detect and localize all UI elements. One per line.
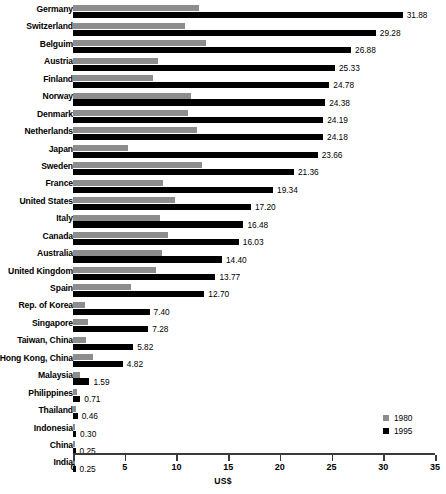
- bar-1980: [73, 197, 175, 203]
- bar-group: 1.59: [73, 369, 446, 386]
- bar-group: 21.36: [73, 160, 446, 177]
- legend-swatch-1980: [383, 415, 389, 421]
- legend-item-1980: 1980: [383, 411, 412, 424]
- bar-value-label: 19.34: [277, 185, 298, 195]
- bar-1980: [73, 40, 206, 46]
- x-axis-tick-label: 10: [171, 462, 181, 472]
- x-axis-tick: [435, 455, 437, 461]
- bar-group: 4.82: [73, 352, 446, 369]
- bar-1980: [73, 284, 131, 290]
- bar-value-label: 23.66: [322, 150, 343, 160]
- chart-row: Italy16.48: [0, 212, 446, 229]
- bar-value-label: 5.82: [137, 342, 153, 352]
- x-axis-tick-label: 35: [430, 462, 440, 472]
- bar-value-label: 17.20: [255, 202, 276, 212]
- bar-group: 17.20: [73, 195, 446, 212]
- legend-item-1995: 1995: [383, 424, 412, 437]
- bar-1995: [73, 65, 335, 71]
- bar-value-label: 0.46: [82, 411, 98, 421]
- category-label: Austria: [0, 56, 73, 66]
- bar-value-label: 16.03: [243, 237, 264, 247]
- x-axis-tick: [73, 455, 75, 461]
- bar-1980: [73, 267, 156, 273]
- chart-row: Denmark24.19: [0, 108, 446, 125]
- category-label: Sweden: [0, 161, 73, 171]
- chart-row: Spain12.70: [0, 282, 446, 299]
- chart-row: Austria25.33: [0, 55, 446, 72]
- bar-1980: [73, 162, 202, 168]
- category-label: France: [0, 178, 73, 188]
- bar-group: 0.25: [73, 456, 446, 473]
- legend-label-1980: 1980: [394, 413, 412, 423]
- bar-group: 14.40: [73, 247, 446, 264]
- bar-value-label: 0.71: [84, 394, 100, 404]
- bar-group: 24.38: [73, 90, 446, 107]
- bar-1980: [73, 145, 128, 151]
- legend-label-1995: 1995: [394, 426, 412, 436]
- x-axis-tick: [280, 455, 282, 461]
- bar-1980: [73, 127, 197, 133]
- bar-1995: [73, 99, 325, 105]
- bar-value-label: 24.19: [327, 115, 348, 125]
- bar-1995: [73, 82, 329, 88]
- x-axis-tick-label: 25: [327, 462, 337, 472]
- bar-value-label: 0.30: [80, 429, 96, 439]
- category-label: Australia: [0, 248, 73, 258]
- bar-group: 24.19: [73, 108, 446, 125]
- chart-row: Finland24.78: [0, 73, 446, 90]
- chart-legend: 1980 1995: [383, 411, 412, 437]
- category-label: Hong Kong, China: [0, 353, 73, 363]
- bar-value-label: 26.88: [355, 45, 376, 55]
- bar-group: 23.66: [73, 143, 446, 160]
- chart-row: Hong Kong, China4.82: [0, 352, 446, 369]
- bar-1980: [73, 302, 85, 308]
- bar-value-label: 31.88: [407, 10, 428, 20]
- x-axis-tick-label: 15: [223, 462, 233, 472]
- category-label: Singapore: [0, 318, 73, 328]
- bar-value-label: 21.36: [298, 167, 319, 177]
- category-label: United Kingdom: [0, 266, 73, 276]
- bar-1980: [73, 354, 93, 360]
- legend-swatch-1995: [383, 428, 389, 434]
- x-axis-tick-label: 5: [122, 462, 127, 472]
- bar-value-label: 12.70: [208, 289, 229, 299]
- bar-1995: [73, 221, 243, 227]
- category-label: United States: [0, 196, 73, 206]
- category-label: Finland: [0, 74, 73, 84]
- bar-1995: [73, 204, 251, 210]
- bar-1995: [73, 12, 403, 18]
- bar-group: 29.28: [73, 20, 446, 37]
- category-label: China: [0, 440, 73, 450]
- chart-row: Philippines0.71: [0, 387, 446, 404]
- bar-1995: [73, 378, 89, 384]
- bar-1995: [73, 309, 150, 315]
- bar-1980: [73, 250, 162, 256]
- category-label: Denmark: [0, 109, 73, 119]
- bar-1995: [73, 274, 215, 280]
- bar-value-label: 14.40: [226, 255, 247, 265]
- chart-row: Indonesia0.30: [0, 422, 446, 439]
- bar-1995: [73, 169, 294, 175]
- category-label: Indonesia: [0, 423, 73, 433]
- bar-1995: [73, 134, 323, 140]
- x-axis-tick: [383, 455, 385, 461]
- bar-1995: [73, 291, 204, 297]
- chart-row: Singapore7.28: [0, 317, 446, 334]
- bar-1980: [73, 215, 160, 221]
- category-label: Rep. of Korea: [0, 300, 73, 310]
- bar-group: 7.28: [73, 317, 446, 334]
- bar-value-label: 7.40: [154, 307, 170, 317]
- x-axis-tick: [228, 455, 230, 461]
- bar-group: 7.40: [73, 299, 446, 316]
- category-label: Italy: [0, 213, 73, 223]
- bar-group: 24.78: [73, 73, 446, 90]
- bar-group: 16.48: [73, 212, 446, 229]
- bar-group: 19.34: [73, 177, 446, 194]
- chart-row: Canada16.03: [0, 230, 446, 247]
- bar-1980: [73, 406, 76, 412]
- bar-1995: [73, 344, 133, 350]
- chart-row: Netherlands24.18: [0, 125, 446, 142]
- x-axis-tick: [176, 455, 178, 461]
- x-axis-tick: [332, 455, 334, 461]
- category-label: Netherlands: [0, 126, 73, 136]
